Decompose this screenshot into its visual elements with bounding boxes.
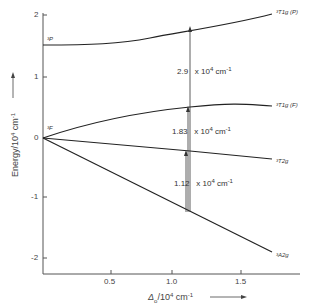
- term-3T1g-P: ³T1g (P): [276, 9, 298, 15]
- y-tick-1: 1: [34, 73, 38, 81]
- term-3T1g-F: ³T1g (F): [276, 102, 298, 108]
- annotation-1-83: 1.83 x 104 cm-1: [172, 126, 231, 136]
- term-3T2g: ³T2g: [276, 158, 288, 164]
- term-3P: ³P: [47, 36, 53, 42]
- y-tick-0: 0: [34, 134, 38, 142]
- curve-3T2g: [43, 138, 272, 159]
- y-axis-label: Energy/104 cm-1: [10, 75, 20, 215]
- energy-level-diagram: [0, 0, 309, 308]
- y-tick-2: 2: [34, 11, 38, 19]
- y-tick-m2: -2: [31, 254, 38, 262]
- x-tick-1-0: 1.0: [166, 278, 177, 286]
- curve-3T1g-F: [43, 104, 272, 138]
- term-3A2g: ³A2g: [276, 252, 289, 258]
- y-tick-m1: -1: [31, 193, 38, 201]
- x-axis-label: Δo/104 cm-1: [148, 292, 193, 304]
- curve-3T1g-P: [43, 14, 272, 45]
- term-3F: ³F: [47, 125, 53, 131]
- annotation-2-9: 2.9 x 104 cm-1: [177, 66, 232, 76]
- x-tick-1-5: 1.5: [235, 278, 246, 286]
- annotation-1-12: 1.12 x 104 cm-1: [174, 178, 233, 188]
- x-tick-0-5: 0.5: [104, 278, 115, 286]
